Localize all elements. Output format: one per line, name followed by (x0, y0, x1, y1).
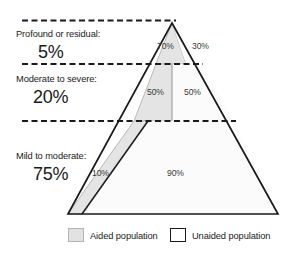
aided-percent-moderate-severe: 50% (147, 88, 164, 97)
unaided-percent-mild-moderate: 90% (167, 169, 184, 178)
aided-percent-profound: 70% (157, 42, 174, 51)
tier-percent-moderate-severe: 20% (33, 88, 68, 106)
unaided-percent-moderate-severe: 50% (184, 88, 201, 97)
legend-swatch-unaided (170, 228, 186, 242)
tier-label-profound: Profound or residual: (16, 30, 100, 39)
legend-label-aided: Aided population (90, 232, 158, 241)
tier-percent-profound: 5% (38, 43, 63, 61)
unaided-percent-profound: 30% (192, 42, 209, 51)
legend-label-unaided: Unaided population (192, 232, 270, 241)
legend-swatch-aided (68, 228, 84, 242)
tier-percent-mild-moderate: 75% (33, 165, 68, 183)
hearing-loss-pyramid-figure: Profound or residual: 5% Moderate to sev… (0, 0, 295, 258)
tier-label-mild-moderate: Mild to moderate: (16, 152, 86, 161)
tier-label-moderate-severe: Moderate to severe: (16, 75, 97, 84)
aided-percent-mild-moderate: 10% (92, 169, 109, 178)
unaided-region-moderate-severe (172, 64, 233, 121)
